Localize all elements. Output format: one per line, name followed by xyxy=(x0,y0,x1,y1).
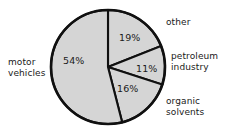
pie-category-label-motor-vehicles: motor vehicles xyxy=(8,57,46,78)
pie-category-label-other: other xyxy=(166,17,190,28)
pie-value-label-organic-solvents: 16% xyxy=(117,83,138,94)
pie-value-label-petroleum-industry: 11% xyxy=(136,63,157,74)
pie-value-label-other: 19% xyxy=(119,32,140,43)
pie-category-label-organic-solvents-line2: solvents xyxy=(166,107,204,118)
pie-category-label-organic-solvents-line1: organic xyxy=(166,96,204,107)
pie-value-label-motor-vehicles: 54% xyxy=(63,55,84,66)
pie-chart: 54% 19% 11% 16% motor vehicles other pet… xyxy=(0,0,231,132)
pie-category-label-petroleum-industry-line2: industry xyxy=(171,62,218,73)
pie-category-label-organic-solvents: organic solvents xyxy=(166,96,204,117)
pie-category-label-motor-vehicles-line1: motor xyxy=(8,57,46,68)
pie-category-label-other-line1: other xyxy=(166,17,190,28)
pie-category-label-motor-vehicles-line2: vehicles xyxy=(8,68,46,79)
pie-category-label-petroleum-industry: petroleum industry xyxy=(171,51,218,72)
pie-category-label-petroleum-industry-line1: petroleum xyxy=(171,51,218,62)
